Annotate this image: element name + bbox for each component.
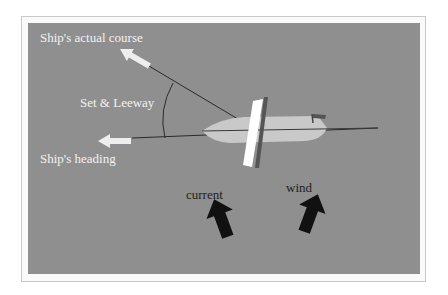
set-leeway-label: Set & Leeway bbox=[80, 95, 154, 111]
current-label: current bbox=[186, 187, 223, 203]
heading-arrow bbox=[98, 134, 131, 148]
set-leeway-arc bbox=[163, 83, 173, 138]
heading-label: Ship's heading bbox=[40, 151, 116, 167]
flag-pole bbox=[312, 114, 313, 123]
wind-arrow bbox=[291, 189, 331, 236]
actual-course-arrow bbox=[117, 43, 153, 72]
wind-label: wind bbox=[286, 180, 312, 196]
actual-course-label: Ship's actual course bbox=[40, 30, 143, 46]
